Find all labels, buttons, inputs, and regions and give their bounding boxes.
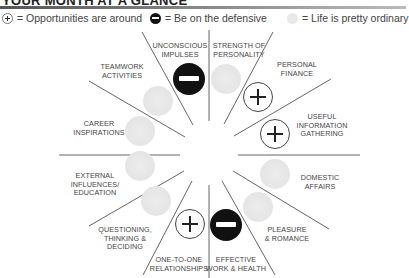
minus-circle-icon [210, 209, 242, 241]
minus-circle-icon [173, 63, 205, 95]
plus-circle-icon [243, 82, 273, 112]
segment-label-domestic-affairs: DOMESTIC AFFAIRS [301, 174, 340, 191]
label-line: AFFAIRS [301, 183, 340, 192]
segment-label-effective-work-health: EFFECTIVE WORK & HEALTH [206, 256, 266, 273]
segment-label-personal-finance: PERSONAL FINANCE [277, 61, 317, 78]
ordinary-circle-icon [125, 151, 155, 181]
ordinary-circle-icon [141, 186, 171, 216]
label-line: INSPIRATIONS [73, 129, 124, 138]
plus-circle-icon [175, 209, 205, 239]
segment-label-one-to-one-relationships: ONE-TO-ONE RELATIONSHIPS [150, 256, 208, 273]
label-line: RELATIONSHIPS [150, 265, 208, 274]
label-line: DECIDING [98, 243, 152, 252]
segment-label-external-influences-education: EXTERNAL INFLUENCES/ EDUCATION [71, 172, 120, 198]
label-line: GATHERING [297, 130, 348, 139]
ordinary-circle-icon [243, 192, 273, 222]
plus-circle-icon [260, 119, 290, 149]
ordinary-circle-icon [211, 64, 241, 94]
label-line: WORK & HEALTH [206, 265, 266, 274]
ordinary-circle-icon [260, 159, 290, 189]
label-line: & ROMANCE [265, 235, 309, 244]
ordinary-circle-icon [143, 86, 173, 116]
label-line: IMPULSES [152, 51, 207, 60]
ordinary-circle-icon [125, 116, 155, 146]
label-line: PERSONALITY [213, 51, 266, 60]
segment-label-teamwork-activities: TEAMWORK ACTIVITIES [100, 63, 143, 80]
segment-label-pleasure-romance: PLEASURE & ROMANCE [265, 226, 309, 243]
segment-label-strength-of-personality: STRENGTH OF PERSONALITY [213, 42, 266, 59]
label-line: FINANCE [277, 70, 317, 79]
segment-label-useful-information-gathering: USEFUL INFORMATION GATHERING [297, 113, 348, 139]
segment-label-career-inspirations: CAREER INSPIRATIONS [73, 120, 124, 137]
segment-label-questioning-thinking-deciding: QUESTIONING, THINKING & DECIDING [98, 226, 152, 252]
segment-label-unconscious-impulses: UNCONSCIOUS IMPULSES [152, 42, 207, 59]
label-line: ACTIVITIES [100, 72, 143, 81]
label-line: EDUCATION [71, 189, 120, 198]
